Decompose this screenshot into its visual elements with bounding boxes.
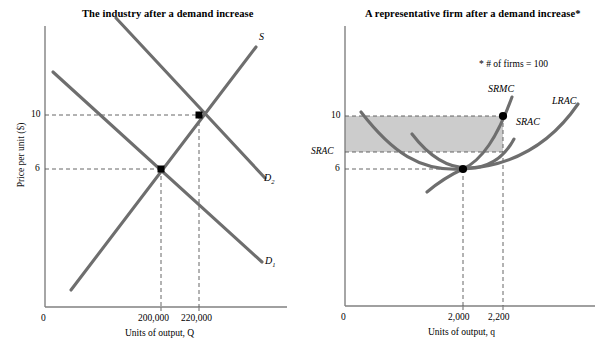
left-xtick-200000: 200,000: [138, 313, 169, 323]
curve-label-s: S: [259, 31, 264, 42]
curve-label-d1-sub: 1: [272, 261, 275, 268]
firms-footnote: * # of firms = 100: [479, 59, 548, 69]
right-x-axis-label-text: Units of output, q: [428, 327, 495, 337]
economics-figure: The industry after a demand increase A r…: [0, 0, 609, 353]
right-ytick-6: 6: [335, 163, 340, 173]
right-x-axis-label: Units of output, q: [428, 327, 495, 337]
equilibrium-point-initial: [158, 166, 165, 173]
right-xtick-2200: 2,200: [488, 312, 509, 322]
equilibrium-point-new: [196, 112, 203, 119]
firm-point-short-run-profit: [499, 112, 507, 120]
curve-label-d1: D1: [265, 255, 275, 268]
right-ytick-10: 10: [331, 110, 341, 120]
right-xtick-2000: 2,000: [448, 312, 469, 322]
left-x-axis-label-text: Units of output, Q: [125, 328, 194, 338]
left-ytick-6: 6: [35, 163, 40, 173]
firm-point-long-run: [459, 165, 467, 173]
curve-demand-2: [116, 18, 265, 178]
figure-canvas: [0, 0, 609, 353]
curve-label-d2: D2: [264, 172, 274, 185]
left-panel-plot: [45, 18, 287, 311]
left-y-axis-label: Price per unit ($): [16, 110, 26, 200]
left-xtick-220000: 220,000: [181, 313, 212, 323]
right-origin-label: 0: [341, 312, 346, 322]
curve-label-srmc: SRMC: [488, 83, 514, 94]
curve-label-lrac: LRAC: [552, 95, 576, 106]
right-panel-plot: [345, 26, 595, 310]
right-ytick-srac: SRAC: [311, 146, 334, 156]
left-origin-label: 0: [41, 313, 46, 323]
curve-label-d2-sub: 2: [271, 178, 274, 185]
left-x-axis-label: Units of output, Q: [125, 328, 194, 338]
left-ytick-10: 10: [31, 109, 41, 119]
curve-label-srac: SRAC: [516, 116, 540, 127]
